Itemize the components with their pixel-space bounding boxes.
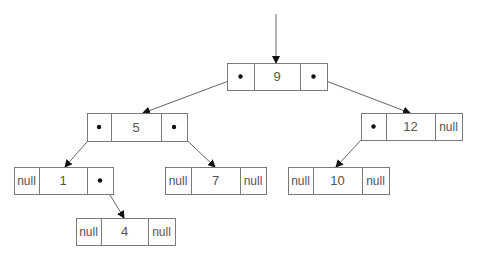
node-value: 4 (121, 224, 128, 239)
tree-node-9: 9 (228, 64, 328, 91)
node-value: 1 (59, 173, 66, 188)
tree-node-10: null10null (289, 168, 390, 195)
right-pointer-dot-icon (311, 74, 315, 78)
tree-node-7: null7null (166, 168, 267, 195)
left-pointer-null-label: null (169, 174, 188, 188)
left-pointer-dot-icon (238, 74, 242, 78)
left-pointer-null-label: null (79, 225, 98, 239)
nodes-layer: 9512nullnull1null7nullnull10nullnull4nul… (15, 64, 463, 246)
right-pointer-null-label: null (152, 225, 171, 239)
left-pointer-dot-icon (371, 124, 375, 128)
tree-node-5: 5 (88, 114, 188, 142)
right-pointer-dot-icon (98, 178, 102, 182)
left-pointer-null-label: null (17, 174, 36, 188)
tree-diagram: 9512nullnull1null7nullnull10nullnull4nul… (0, 0, 477, 258)
node-value: 5 (132, 120, 139, 135)
right-pointer-dot-icon (172, 125, 176, 129)
right-pointer-null-label: null (439, 120, 458, 134)
tree-node-12: 12null (362, 114, 463, 141)
tree-node-4: null4null (77, 219, 176, 246)
left-pointer-null-label: null (291, 174, 310, 188)
node-value: 12 (403, 119, 417, 134)
right-pointer-null-label: null (244, 174, 263, 188)
node-value: 10 (330, 173, 344, 188)
node-value: 9 (273, 69, 280, 84)
tree-node-1: null1 (15, 168, 114, 195)
right-pointer-null-label: null (366, 174, 385, 188)
node-value: 7 (212, 173, 219, 188)
left-pointer-dot-icon (97, 125, 101, 129)
